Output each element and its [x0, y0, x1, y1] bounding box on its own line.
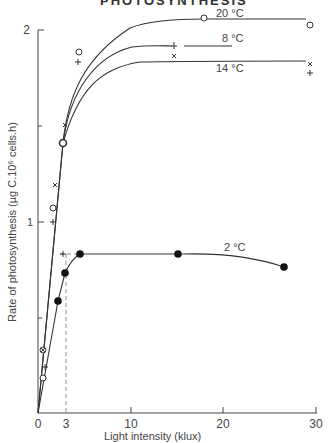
label-14c: 14 °C [216, 62, 244, 74]
x-tick-label-0: 0 [35, 417, 42, 431]
y-axis-label: Rate of photosynthesis (µg C.10⁶ cells.h… [6, 122, 18, 322]
line-chart: 2 1 0 3 10 20 30 Light intensity (klux) … [0, 0, 328, 443]
curve-2c [38, 254, 284, 413]
x-tick-label-30: 30 [309, 417, 323, 431]
markers-8c [42, 42, 313, 370]
x-tick-label-3: 3 [63, 417, 70, 431]
label-8c: 8 °C [222, 32, 244, 44]
curve-20c [38, 19, 306, 413]
label-20c: 20 °C [216, 7, 244, 19]
curve-8c [38, 46, 232, 413]
saturation-guide [60, 254, 80, 413]
markers-20c [40, 15, 313, 381]
y-tick-label-1: 1 [27, 216, 33, 228]
x-tick-label-20: 20 [216, 417, 230, 431]
label-2c: 2 °C [224, 241, 246, 253]
x-tick-label-10: 10 [124, 417, 138, 431]
y-tick-label-2: 2 [23, 23, 30, 37]
curve-14c [63, 61, 306, 143]
axes [38, 30, 317, 413]
x-axis-label: Light intensity (klux) [104, 430, 201, 442]
markers-14c [53, 54, 312, 187]
